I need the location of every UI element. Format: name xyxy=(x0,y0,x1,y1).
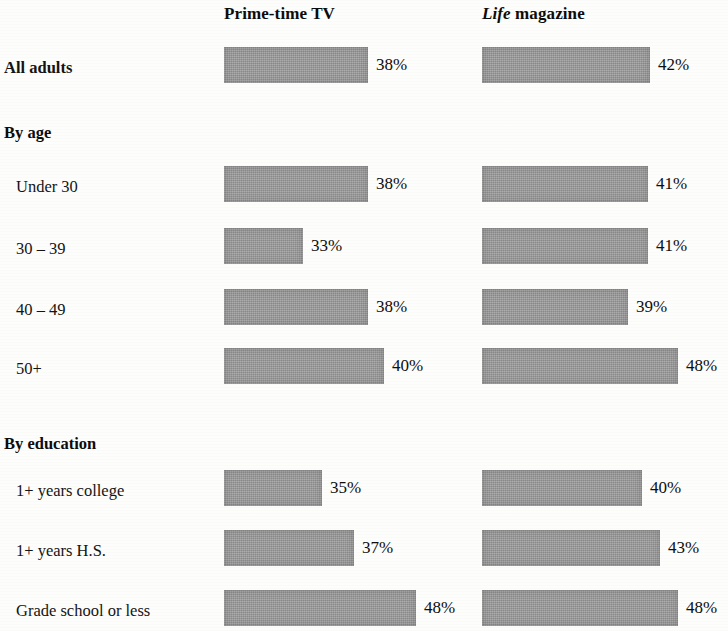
row-label-30-39: 30 – 39 xyxy=(16,239,66,259)
bar-life-magazine-50-plus xyxy=(482,348,678,384)
column-header-life-magazine: Life magazine xyxy=(482,4,585,24)
bar-value-life-magazine-40-49: 39% xyxy=(636,289,667,325)
row-label-under-30: Under 30 xyxy=(16,177,78,197)
row-label-50-plus: 50+ xyxy=(16,359,42,379)
bar-value-life-magazine-1-plus-years-hs: 43% xyxy=(668,530,699,566)
bar-value-prime-time-tv-50-plus: 40% xyxy=(392,348,423,384)
bar-value-life-magazine-under-30: 41% xyxy=(656,166,687,202)
bar-value-life-magazine-grade-school-or-less: 48% xyxy=(686,590,717,626)
bar-life-magazine-under-30 xyxy=(482,166,648,202)
row-label-40-49: 40 – 49 xyxy=(16,300,66,320)
bar-prime-time-tv-30-39 xyxy=(224,228,303,264)
bar-value-prime-time-tv-grade-school-or-less: 48% xyxy=(424,590,455,626)
column-header-life-magazine-rest: magazine xyxy=(511,4,585,23)
column-header-prime-time-tv: Prime-time TV xyxy=(224,4,335,24)
bar-prime-time-tv-1-plus-years-college xyxy=(224,470,322,506)
bar-prime-time-tv-under-30 xyxy=(224,166,368,202)
section-title-by-age: By age xyxy=(4,123,51,143)
bar-prime-time-tv-grade-school-or-less xyxy=(224,590,416,626)
bar-life-magazine-1-plus-years-hs xyxy=(482,530,660,566)
bar-prime-time-tv-1-plus-years-hs xyxy=(224,530,354,566)
bar-value-prime-time-tv-all-adults: 38% xyxy=(376,47,407,83)
bar-value-prime-time-tv-under-30: 38% xyxy=(376,166,407,202)
bar-prime-time-tv-50-plus xyxy=(224,348,384,384)
column-header-prime-time-tv-label: Prime-time TV xyxy=(224,4,335,23)
bar-value-life-magazine-30-39: 41% xyxy=(656,228,687,264)
bar-value-prime-time-tv-40-49: 38% xyxy=(376,289,407,325)
bar-value-life-magazine-all-adults: 42% xyxy=(658,47,689,83)
bar-value-life-magazine-50-plus: 48% xyxy=(686,348,717,384)
column-header-life-magazine-italic: Life xyxy=(482,4,511,23)
bar-value-prime-time-tv-1-plus-years-college: 35% xyxy=(330,470,361,506)
section-title-by-education: By education xyxy=(4,434,96,454)
row-label-1-plus-years-hs: 1+ years H.S. xyxy=(16,541,106,561)
bar-life-magazine-1-plus-years-college xyxy=(482,470,642,506)
bar-life-magazine-40-49 xyxy=(482,289,628,325)
bar-value-prime-time-tv-30-39: 33% xyxy=(311,228,342,264)
bar-value-life-magazine-1-plus-years-college: 40% xyxy=(650,470,681,506)
row-label-1-plus-years-college: 1+ years college xyxy=(16,481,124,501)
bar-value-prime-time-tv-1-plus-years-hs: 37% xyxy=(362,530,393,566)
grouped-bar-chart: Prime-time TV Life magazine All adults 3… xyxy=(0,0,728,631)
row-label-all-adults: All adults xyxy=(4,58,72,78)
bar-life-magazine-all-adults xyxy=(482,47,650,83)
bar-prime-time-tv-all-adults xyxy=(224,47,368,83)
bar-life-magazine-30-39 xyxy=(482,228,648,264)
bar-life-magazine-grade-school-or-less xyxy=(482,590,678,626)
bar-prime-time-tv-40-49 xyxy=(224,289,368,325)
row-label-grade-school-or-less: Grade school or less xyxy=(16,601,150,621)
